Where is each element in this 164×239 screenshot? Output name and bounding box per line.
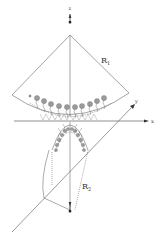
z-axis-arrowhead [69, 14, 72, 18]
interface-band [40, 114, 97, 120]
lower-cap [43, 122, 88, 212]
upper-lipid-heads [29, 95, 107, 110]
x-axis-label: x [151, 118, 154, 124]
r1-label: R1 [101, 56, 110, 66]
r2-label: R2 [82, 182, 91, 192]
y-axis [12, 108, 131, 232]
membrane-curvature-diagram: z R1 x y [0, 0, 164, 239]
y-axis-label: y [134, 98, 138, 105]
upper-sector [12, 35, 129, 116]
z-axis-label: z [69, 5, 72, 11]
x-axis-arrowhead [144, 120, 149, 123]
